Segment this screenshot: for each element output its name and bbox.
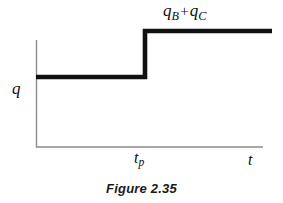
upper-level-label: qB+qC: [163, 2, 206, 19]
y-axis-label-base: q: [12, 79, 21, 98]
upper-level-term2-sub: C: [198, 9, 206, 23]
x-axis-label-t: t: [248, 152, 252, 168]
figure-2-35: q qB+qC tp t Figure 2.35: [0, 0, 283, 203]
x-axis-tick-label-tp: tp: [134, 150, 144, 166]
y-axis-label-q: q: [12, 80, 21, 97]
plot-canvas: [0, 0, 283, 203]
step-curve: [36, 31, 272, 77]
upper-level-term1-base: q: [163, 1, 172, 20]
x-axis-label-base: t: [248, 151, 252, 168]
upper-level-term1-sub: B: [172, 9, 179, 23]
x-tick-sub: p: [138, 156, 144, 168]
upper-level-operator: +: [179, 2, 190, 19]
figure-caption: Figure 2.35: [0, 181, 283, 196]
